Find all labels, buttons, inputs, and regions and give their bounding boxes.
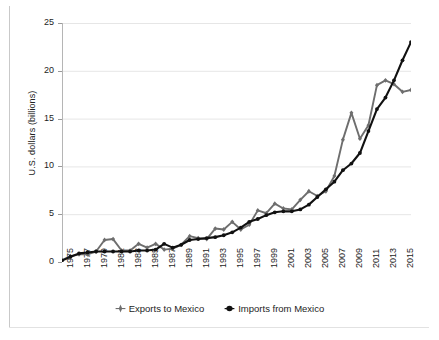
circle-marker-icon [224,303,235,314]
data-point-imports [103,250,107,254]
data-point-imports [162,242,166,246]
plot-area [62,23,411,262]
data-point-imports [128,250,132,254]
chart-figure: U.S. dollars (billions) 0510152025 19751… [0,0,439,340]
data-point-imports [341,168,345,172]
data-point-imports [86,251,90,255]
data-point-imports [358,151,362,155]
y-tick-label: 0 [28,257,54,266]
data-point-imports [332,180,336,184]
data-point-imports [205,236,209,240]
y-tick-label: 25 [28,18,54,27]
figure-bottom-rule [9,327,429,328]
legend-item-exports[interactable]: Exports to Mexico [115,303,205,314]
figure-left-rule [9,6,10,328]
data-point-imports [77,252,81,256]
data-point-imports [154,248,158,252]
y-tick-label: 5 [28,209,54,218]
data-point-imports [392,78,396,82]
data-point-imports [307,203,311,207]
line-chart-canvas [62,23,411,262]
data-point-imports [196,237,200,241]
y-axis-title: U.S. dollars (billions) [27,58,37,208]
data-point-imports [137,249,141,253]
y-tick-label: 20 [28,66,54,75]
data-point-imports [290,209,294,213]
data-point-imports [230,230,234,234]
data-point-imports [222,233,226,237]
data-point-imports [111,250,115,254]
y-tick-label: 10 [28,161,54,170]
data-point-imports [213,235,217,239]
series-line-imports [62,42,411,260]
data-point-exports [409,88,411,93]
data-point-imports [239,226,243,230]
data-point-imports [188,238,192,242]
data-point-imports [94,250,98,254]
data-point-imports [324,187,328,191]
y-tick-mark [58,262,62,263]
data-point-imports [384,96,388,100]
legend-item-imports[interactable]: Imports from Mexico [224,303,324,314]
data-point-imports [273,210,277,214]
data-point-imports [69,255,73,259]
data-point-imports [256,217,260,221]
legend-label-imports: Imports from Mexico [238,303,324,314]
data-point-imports [247,220,251,224]
data-point-imports [120,250,124,254]
data-point-imports [171,246,175,250]
data-point-imports [281,209,285,213]
data-point-imports [375,107,379,111]
y-tick-label: 15 [28,114,54,123]
data-point-imports [401,58,405,62]
data-point-imports [315,195,319,199]
series-line-exports [62,80,411,260]
data-point-imports [350,162,354,166]
data-point-imports [145,249,149,253]
data-point-imports [179,243,183,247]
legend-label-exports: Exports to Mexico [129,303,205,314]
data-point-imports [264,213,268,217]
diamond-marker-icon [115,303,126,314]
data-point-imports [367,129,371,133]
data-point-imports [298,208,302,212]
chart-legend: Exports to Mexico Imports from Mexico [0,303,439,314]
